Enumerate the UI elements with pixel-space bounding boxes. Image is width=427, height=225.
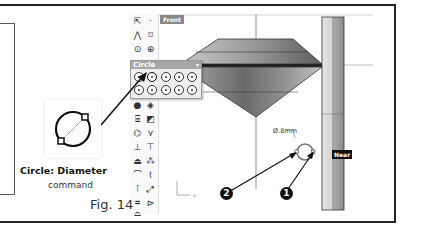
front-viewport[interactable] [158,14,380,214]
previous-figure-box [0,23,15,195]
caption-title: Circle: Diameter [20,165,107,176]
pointer-arrow [95,70,155,130]
snap-near-tag: Near [332,150,352,159]
ellipse-icon[interactable]: ⊕ [145,44,156,55]
polyline-icon[interactable]: ⋀ [132,30,143,41]
circle-around-curve-icon[interactable] [187,72,197,82]
group-icon[interactable]: ⁂ [145,156,156,167]
circle-3point-icon[interactable] [161,72,171,82]
curve-control-points-icon[interactable]: ⌑ [145,30,156,41]
callout-2: 2 [220,187,233,200]
blend-icon[interactable]: ⌇ [145,170,156,181]
circle-fit-points-icon[interactable] [161,85,171,95]
fillet-icon[interactable]: ⌒ [132,170,143,181]
frame-right-border [394,4,396,223]
boolean-difference-icon[interactable]: ⊤ [145,142,156,153]
callout-1: 1 [280,187,293,200]
circle-diameter-icon-enlarged [45,100,101,158]
dome-icon[interactable]: ⌓ [132,208,143,219]
flyout-title[interactable]: Circle [131,61,201,69]
flyout-close-icon[interactable]: ▾ [196,61,199,69]
boolean-union-icon[interactable]: ⊥ [132,142,143,153]
move-icon[interactable]: ⊺ [132,184,143,195]
frame-bottom-border [0,221,396,223]
viewport-label[interactable]: Front [160,15,184,24]
point-icon[interactable]: · [145,16,156,27]
mirror-icon[interactable]: ⊳ [145,198,156,209]
lock-icon[interactable]: ⏏ [132,156,143,167]
circle-icon[interactable]: ⊙ [132,44,143,55]
circle-tangent-3-icon[interactable] [174,85,184,95]
caption-subtitle: command [48,180,93,190]
dimension-label: Ø.8mm [273,127,297,135]
axis-x-label: x [193,192,196,198]
select-arrow-icon[interactable]: ⇱ [132,16,143,27]
scale-icon[interactable]: ⤢ [145,184,156,195]
circle-tangent-curves-icon[interactable] [187,85,197,95]
viewport-scene [158,14,380,214]
circle-diameter-icon [45,100,101,158]
axis-gizmo [177,181,190,195]
circle-tangent-icon[interactable] [174,72,184,82]
frame-top-border [0,4,396,6]
figure-number: Fig. 14 [90,197,133,212]
